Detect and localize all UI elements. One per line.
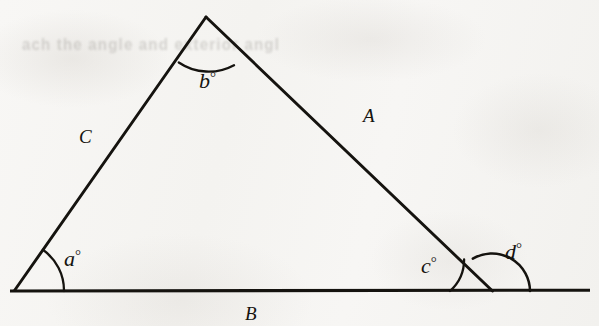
side-A-segment xyxy=(206,17,493,291)
angle-variable-c: c xyxy=(421,253,431,278)
angle-variable-a: a xyxy=(64,246,75,271)
angle-label-a: a° xyxy=(64,246,81,272)
side-label-C: C xyxy=(79,126,92,148)
angle-arc-a xyxy=(43,250,64,291)
degree-symbol-b: ° xyxy=(210,69,216,85)
side-label-B: B xyxy=(245,303,257,325)
angle-arc-c xyxy=(450,260,464,292)
degree-symbol-a: ° xyxy=(75,247,81,263)
side-label-A: A xyxy=(363,105,375,127)
baseline-segment-B xyxy=(10,290,590,291)
angle-variable-d: d xyxy=(505,239,516,264)
angle-label-d: d° xyxy=(505,239,522,265)
angle-variable-b: b xyxy=(199,68,210,93)
triangle-diagram-svg xyxy=(0,0,599,326)
degree-symbol-c: ° xyxy=(431,254,437,270)
geometry-figure: ach the angle and exterior angl A B C a°… xyxy=(0,0,599,326)
angle-label-b: b° xyxy=(199,68,216,94)
degree-symbol-d: ° xyxy=(516,240,522,256)
angle-label-c: c° xyxy=(421,253,437,279)
